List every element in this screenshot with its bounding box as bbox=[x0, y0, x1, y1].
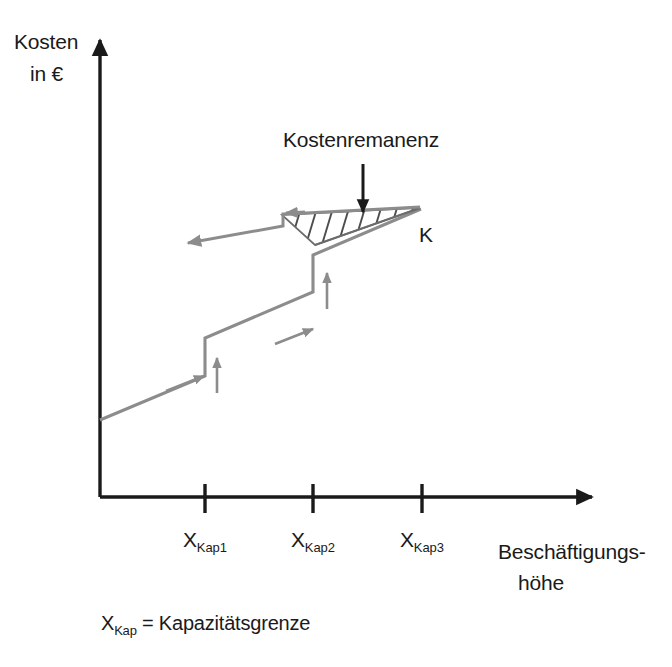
y-axis-label: Kosten in € bbox=[14, 26, 104, 90]
x-axis-label: Beschäftigungs- höhe bbox=[498, 536, 658, 598]
x-tick-label-kap3: XKap3 bbox=[367, 528, 477, 555]
caption-symbol: X bbox=[101, 612, 114, 634]
arrow-right-step2 bbox=[275, 329, 313, 344]
arrow-left-remanence-step bbox=[286, 212, 305, 213]
x-tick-label-kap3-base: X bbox=[400, 528, 414, 551]
x-axis-label-line2: höhe bbox=[498, 567, 658, 598]
arrow-right-step1 bbox=[166, 376, 204, 391]
caption-subscript: Kap bbox=[114, 623, 137, 638]
y-axis-label-line1: Kosten bbox=[14, 30, 78, 53]
y-axis-label-line2: in € bbox=[14, 58, 104, 90]
axis-group bbox=[100, 40, 592, 497]
caption-definition: = Kapazitätsgrenze bbox=[137, 612, 311, 634]
x-axis-label-line1: Beschäftigungs- bbox=[498, 540, 646, 563]
curve-label-k: K bbox=[419, 223, 433, 247]
cost-remanence-chart: Kosten in € Beschäftigungs- höhe Kostenr… bbox=[0, 0, 672, 667]
x-tick-label-kap3-sub: Kap3 bbox=[414, 540, 444, 555]
chart-caption: XKap = Kapazitätsgrenze bbox=[101, 612, 310, 638]
x-tick-label-kap1: XKap1 bbox=[150, 528, 260, 555]
x-tick-label-kap1-base: X bbox=[183, 528, 197, 551]
x-tick-label-kap2-base: X bbox=[291, 528, 305, 551]
kostenremanenz-hatched-region bbox=[270, 188, 435, 258]
x-tick-label-kap2-sub: Kap2 bbox=[305, 540, 335, 555]
x-tick-label-kap1-sub: Kap1 bbox=[197, 540, 227, 555]
direction-arrow-group bbox=[166, 273, 327, 393]
annotation-kostenremanenz-label: Kostenremanenz bbox=[283, 128, 439, 152]
x-tick-label-kap2: XKap2 bbox=[258, 528, 368, 555]
cost-step-curve bbox=[100, 209, 421, 420]
